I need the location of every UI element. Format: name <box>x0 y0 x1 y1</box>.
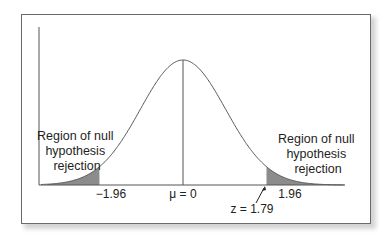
observed-z-label: z = 1.79 <box>230 202 273 216</box>
tick-label-mean: μ = 0 <box>169 187 197 201</box>
left-region-label: Region of null hypothesis rejection <box>37 129 117 173</box>
arrowhead-icon <box>262 186 266 191</box>
tick-label-minus-1-96: −1.96 <box>96 187 127 201</box>
tick-label-plus-1-96: 1.96 <box>278 187 302 201</box>
normal-distribution-chart: Region of null hypothesis rejection Regi… <box>0 0 386 237</box>
right-region-label: Region of null hypothesis rejection <box>278 132 358 176</box>
